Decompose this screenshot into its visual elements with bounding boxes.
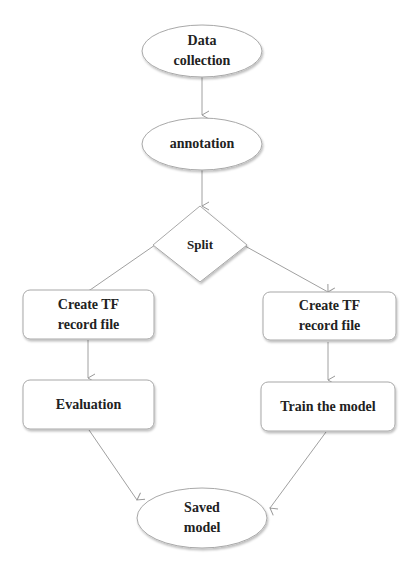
edge-split-left: [90, 245, 155, 290]
node-label: collection: [174, 51, 231, 71]
flowchart-canvas: [0, 0, 415, 571]
node-label: model: [184, 518, 221, 538]
node-label: Split: [187, 235, 213, 255]
node-label: record file: [299, 316, 361, 336]
node-label: Evaluation: [56, 395, 121, 415]
edge-split-right: [245, 246, 328, 292]
node-label: annotation: [170, 134, 235, 154]
edge-train-saved: [270, 432, 326, 508]
node-split: Split: [160, 230, 240, 260]
node-label: Data: [188, 31, 217, 51]
node-create-tf-right: Create TF record file: [263, 292, 396, 340]
node-annotation: annotation: [142, 118, 262, 170]
edge-evaluation-saved: [89, 430, 137, 500]
node-label: Train the model: [280, 397, 375, 417]
node-saved-model: Saved model: [137, 488, 267, 548]
node-label: Create TF: [58, 295, 119, 315]
node-create-tf-left: Create TF record file: [23, 290, 154, 339]
node-data-collection: Data collection: [142, 25, 262, 77]
node-train-model: Train the model: [261, 382, 395, 431]
node-label: record file: [58, 315, 120, 335]
node-evaluation: Evaluation: [23, 380, 154, 429]
node-label: Saved: [184, 498, 220, 518]
node-label: Create TF: [299, 296, 360, 316]
